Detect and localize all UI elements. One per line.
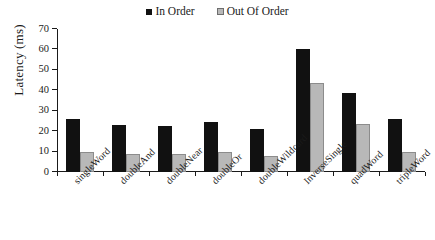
x-tick [57, 172, 58, 176]
x-tick [241, 172, 242, 176]
legend-item-out-of-order: Out Of Order [217, 6, 289, 18]
bar [342, 93, 356, 172]
plot-area: 010203040506070 [57, 29, 425, 172]
x-tick [379, 172, 380, 176]
x-tick [333, 172, 334, 176]
bar [112, 125, 126, 172]
y-tick-label: 70 [39, 23, 50, 34]
bar [158, 126, 172, 172]
y-tick: 40 [52, 89, 57, 90]
bar [296, 49, 310, 172]
y-tick-label: 10 [39, 146, 50, 157]
y-axis-title: Latency (ms) [11, 5, 27, 115]
y-tick-label: 40 [39, 85, 50, 96]
bar-chart: In Order Out Of Order Latency (ms) 01020… [0, 0, 435, 240]
y-tick: 60 [52, 48, 57, 49]
bar [204, 122, 218, 172]
x-tick [425, 172, 426, 176]
y-tick: 50 [52, 69, 57, 70]
legend-item-in-order: In Order [146, 6, 194, 18]
x-tick [195, 172, 196, 176]
legend-label-out-of-order: Out Of Order [227, 6, 289, 18]
y-tick-label: 0 [44, 166, 49, 177]
y-tick-label: 60 [39, 44, 50, 55]
y-tick-label: 50 [39, 64, 50, 75]
x-tick [103, 172, 104, 176]
y-tick-label: 20 [39, 125, 50, 136]
y-tick: 30 [52, 110, 57, 111]
gray-square-icon [217, 8, 224, 15]
black-square-icon [146, 9, 152, 15]
legend-label-in-order: In Order [155, 6, 194, 18]
y-tick-label: 30 [39, 105, 50, 116]
chart-legend: In Order Out Of Order [0, 6, 435, 18]
bar [66, 119, 80, 172]
x-tick [149, 172, 150, 176]
bar [388, 119, 402, 172]
bar [250, 129, 264, 172]
x-tick [287, 172, 288, 176]
y-tick: 70 [52, 28, 57, 29]
